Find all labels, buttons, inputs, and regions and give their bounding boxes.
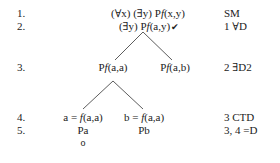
line-number-1: 1. bbox=[17, 7, 25, 19]
line-number-3: 3. bbox=[17, 61, 25, 73]
formula-line-5-left: Pa bbox=[78, 124, 89, 136]
line-number-5: 5. bbox=[17, 124, 25, 136]
formula-line-4-left: a = f(a,a) bbox=[63, 111, 103, 123]
formula-line-3-right: Pf(a,b) bbox=[160, 61, 190, 73]
justification-4: 3 CTD bbox=[224, 111, 254, 123]
line-number-2: 2. bbox=[17, 20, 25, 32]
formula-line-1: (∀x) (∃y) Pf(x,y) bbox=[111, 7, 185, 19]
justification-5: 3, 4 =D bbox=[224, 124, 257, 136]
justification-3: 2 ∃D2 bbox=[224, 61, 252, 73]
branch-line-left-1 bbox=[115, 32, 143, 60]
formula-line-3-left: Pf(a,a) bbox=[98, 61, 127, 73]
formula-line-5-right: Pb bbox=[138, 124, 150, 136]
branch-line-right-1 bbox=[143, 32, 172, 60]
line-number-4: 4. bbox=[17, 111, 25, 123]
branch-line-left-2 bbox=[83, 81, 113, 109]
checkmark-icon: ✔ bbox=[171, 22, 179, 32]
branch-line-right-2 bbox=[113, 81, 143, 109]
formula-line-4-right: b = f(a,a) bbox=[124, 111, 164, 123]
formula-line-2: (∃y) Pf(a,y)✔ bbox=[119, 20, 179, 33]
justification-2: 1 ∀D bbox=[224, 20, 247, 32]
justification-1: SM bbox=[224, 7, 240, 19]
open-branch-marker: o bbox=[81, 137, 86, 149]
